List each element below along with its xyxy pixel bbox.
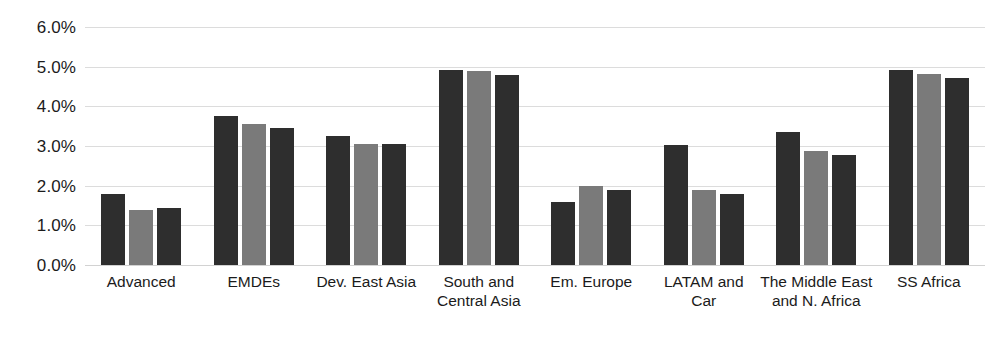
bar bbox=[917, 74, 941, 265]
bar bbox=[664, 145, 688, 265]
bar bbox=[354, 144, 378, 265]
bar-chart: 6.0%5.0%4.0%3.0%2.0%1.0%0.0% AdvancedEMD… bbox=[0, 0, 1002, 340]
bar bbox=[692, 190, 716, 265]
y-axis: 6.0%5.0%4.0%3.0%2.0%1.0%0.0% bbox=[0, 0, 76, 340]
y-axis-tick-label: 3.0% bbox=[14, 138, 76, 155]
gridline bbox=[85, 265, 985, 266]
x-axis-tick-label: Em. Europe bbox=[535, 272, 648, 291]
bar-group bbox=[214, 27, 294, 265]
bar bbox=[889, 70, 913, 265]
y-axis-tick-label: 0.0% bbox=[14, 257, 76, 274]
bar bbox=[326, 136, 350, 265]
y-axis-tick-label: 6.0% bbox=[14, 19, 76, 36]
bar bbox=[101, 194, 125, 265]
x-axis-tick-label: LATAM and Car bbox=[648, 272, 761, 310]
bar bbox=[439, 70, 463, 265]
bar-group bbox=[889, 27, 969, 265]
bar bbox=[607, 190, 631, 265]
bar-group bbox=[776, 27, 856, 265]
footnote-text bbox=[150, 327, 850, 340]
y-axis-tick-label: 2.0% bbox=[14, 178, 76, 195]
y-axis-tick-label: 1.0% bbox=[14, 217, 76, 234]
bar bbox=[270, 128, 294, 265]
bar bbox=[467, 71, 491, 265]
plot-area bbox=[85, 27, 985, 265]
y-axis-tick-label: 4.0% bbox=[14, 98, 76, 115]
x-axis-tick-label: EMDEs bbox=[198, 272, 311, 291]
bar-group bbox=[439, 27, 519, 265]
bar bbox=[804, 151, 828, 265]
bar-group bbox=[326, 27, 406, 265]
bar bbox=[720, 194, 744, 265]
bar-group bbox=[101, 27, 181, 265]
bar bbox=[579, 186, 603, 265]
bar bbox=[214, 116, 238, 265]
bar bbox=[242, 124, 266, 265]
bar-group bbox=[664, 27, 744, 265]
bar bbox=[382, 144, 406, 265]
bar bbox=[832, 155, 856, 265]
x-axis-tick-label: Dev. East Asia bbox=[310, 272, 423, 291]
bar bbox=[157, 208, 181, 265]
x-axis-tick-label: SS Africa bbox=[873, 272, 986, 291]
bar bbox=[129, 210, 153, 265]
bar bbox=[495, 75, 519, 265]
x-axis-tick-label: The Middle East and N. Africa bbox=[760, 272, 873, 310]
x-axis-tick-label: Advanced bbox=[85, 272, 198, 291]
bar-group bbox=[551, 27, 631, 265]
bar bbox=[776, 132, 800, 265]
x-axis-tick-label: South and Central Asia bbox=[423, 272, 536, 310]
bar bbox=[945, 78, 969, 265]
bar bbox=[551, 202, 575, 265]
y-axis-tick-label: 5.0% bbox=[14, 59, 76, 76]
